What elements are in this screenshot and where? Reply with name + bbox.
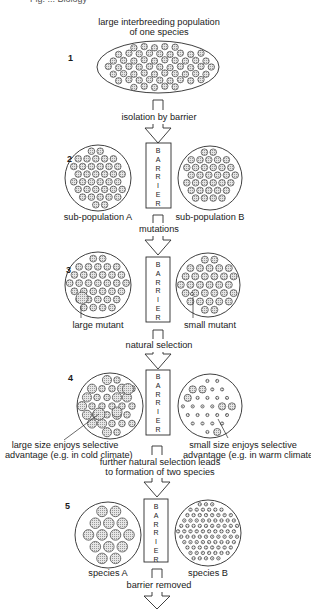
stage-number-1: 1 — [68, 53, 73, 63]
page-header-fragment: Fig. ... Biology — [30, 0, 87, 4]
label-sub-population-b: sub-population B — [155, 212, 265, 222]
stage-number-4: 4 — [68, 373, 73, 383]
label-species-a: species A — [53, 568, 163, 578]
label-large-mutant: large mutant — [43, 320, 153, 330]
barrier-label-4: BARRIER — [146, 373, 170, 435]
label-large-size-1: large size enjoys selective — [5, 440, 125, 450]
transition-label-natural-selection: natural selection — [99, 340, 219, 350]
barrier-label-2: BARRIER — [146, 147, 170, 209]
label-species-b: species B — [153, 568, 263, 578]
speciation-diagram: Fig. ... Biology large interbreeding pop… — [0, 0, 311, 612]
label-sub-population-a: sub-population A — [43, 212, 153, 222]
barrier-label-3: BARRIER — [146, 261, 170, 323]
label-small-mutant: small mutant — [155, 320, 265, 330]
barrier-label-5: BARRIER — [144, 503, 168, 565]
transition-label-barrier-removed: barrier removed — [99, 580, 219, 590]
label-small-size-2: advantage (e.g. in warm climate) — [183, 450, 309, 460]
title-line-2: of one species — [84, 27, 234, 37]
label-small-size-1: small size enjoys selective — [183, 440, 303, 450]
transition-label-mutations: mutations — [99, 224, 219, 234]
stage-number-2: 2 — [67, 154, 72, 164]
transition-label-further-selection-2: to formation of two species — [80, 467, 240, 477]
stage-number-5: 5 — [65, 501, 70, 511]
transition-label-isolation: isolation by barrier — [99, 112, 219, 122]
population-ellipse — [97, 41, 219, 93]
stage-number-3: 3 — [66, 265, 71, 275]
label-large-size-2: advantage (e.g. in cold climate) — [5, 450, 125, 460]
title-line-1: large interbreeding population — [84, 17, 234, 27]
